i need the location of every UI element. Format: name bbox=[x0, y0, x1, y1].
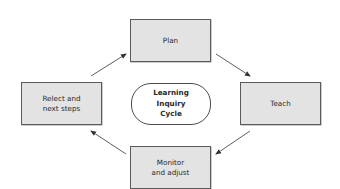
node-monitor: Monitor and adjust bbox=[130, 146, 211, 189]
center-oval: Learning Inquiry Cycle bbox=[131, 83, 211, 125]
node-plan-label: Plan bbox=[163, 36, 178, 46]
node-teach-label: Teach bbox=[270, 99, 291, 109]
node-plan: Plan bbox=[130, 19, 211, 62]
node-teach: Teach bbox=[240, 82, 321, 125]
node-monitor-label: Monitor and adjust bbox=[152, 158, 190, 178]
arrow-reflect-to-plan bbox=[91, 54, 126, 76]
node-reflect: Relect and next steps bbox=[21, 82, 102, 125]
arrow-monitor-to-reflect bbox=[91, 131, 126, 154]
arrow-plan-to-teach bbox=[216, 54, 250, 76]
arrow-teach-to-monitor bbox=[216, 131, 250, 154]
center-label: Learning Inquiry Cycle bbox=[153, 88, 189, 120]
node-reflect-label: Relect and next steps bbox=[42, 94, 80, 114]
